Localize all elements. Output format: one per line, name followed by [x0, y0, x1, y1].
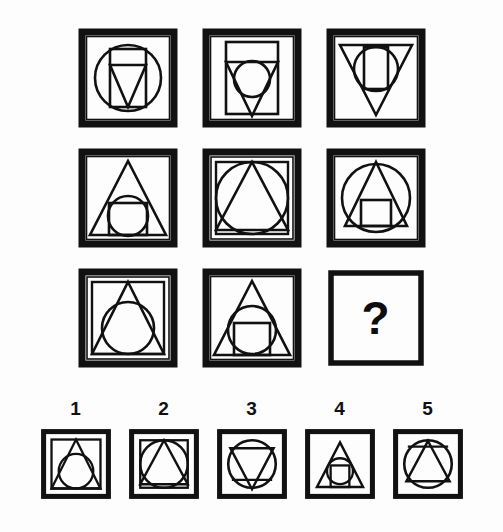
figure-option-1 [40, 428, 112, 500]
answer-option-2[interactable] [128, 428, 200, 500]
matrix-cell-r2c3[interactable] [326, 148, 426, 248]
answer-label-2: 2 [128, 398, 200, 420]
figure-r2c2 [202, 148, 302, 248]
matrix-cell-r3c3-missing[interactable]: ? [326, 268, 426, 368]
matrix-row-2 [0, 148, 503, 258]
matrix-cell-r1c3[interactable] [326, 28, 426, 128]
answer-option-row [0, 428, 503, 508]
figure-r1c1 [78, 28, 178, 128]
answer-label-5: 5 [392, 398, 464, 420]
figure-r2c3 [326, 148, 426, 248]
answer-option-5[interactable] [392, 428, 464, 500]
figure-r1c2 [202, 28, 302, 128]
matrix-row-3: ? [0, 268, 503, 378]
matrix-cell-r2c1[interactable] [78, 148, 178, 248]
matrix-cell-r3c2[interactable] [202, 268, 302, 368]
answer-label-4: 4 [304, 398, 376, 420]
answer-option-labels: 1 2 3 4 5 [0, 396, 503, 422]
matrix-cell-r2c2[interactable] [202, 148, 302, 248]
matrix-cell-r3c1[interactable] [78, 268, 178, 368]
answer-label-1: 1 [40, 398, 112, 420]
matrix-reasoning-puzzle: ? 1 2 3 4 5 [0, 0, 503, 532]
answer-option-3[interactable] [216, 428, 288, 500]
matrix-cell-r1c1[interactable] [78, 28, 178, 128]
figure-r1c3 [326, 28, 426, 128]
answer-option-4[interactable] [304, 428, 376, 500]
figure-option-5 [392, 428, 464, 500]
matrix-cell-r1c2[interactable] [202, 28, 302, 128]
figure-option-2 [128, 428, 200, 500]
matrix-row-1 [0, 28, 503, 138]
figure-r2c1 [78, 148, 178, 248]
matrix-grid: ? [0, 0, 503, 380]
figure-r3c1 [78, 268, 178, 368]
answer-options: 1 2 3 4 5 [0, 396, 503, 532]
answer-option-1[interactable] [40, 428, 112, 500]
figure-option-3 [216, 428, 288, 500]
answer-label-3: 3 [216, 398, 288, 420]
figure-r3c2 [202, 268, 302, 368]
figure-option-4 [304, 428, 376, 500]
missing-tile-question-mark: ? [326, 268, 426, 368]
